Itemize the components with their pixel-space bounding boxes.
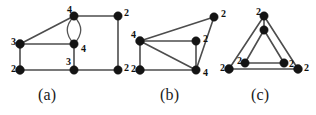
vertex-c-inner-top — [260, 26, 268, 34]
vertex-c-inner-left-label: 2 — [237, 55, 242, 66]
vertex-b-left-label: 4 — [131, 29, 136, 40]
vertex-a-bottommid — [70, 66, 78, 74]
graph-panel-a: 4234232 — [11, 4, 129, 74]
caption-c: (c) — [0, 86, 316, 104]
vertex-c-bottomleft — [225, 65, 234, 74]
vertex-b-top-label: 2 — [221, 8, 226, 19]
vertex-c-apex-label: 2 — [256, 6, 261, 17]
graph-panel-c: 22222 — [220, 6, 309, 73]
vertex-b-bottomright-label: 4 — [203, 67, 208, 78]
edge-b-left-bottomright — [140, 41, 196, 70]
vertex-a-bottomleft — [16, 66, 25, 75]
vertex-a-mid — [70, 40, 78, 48]
edge-c-innertop-innerleft — [245, 30, 264, 63]
vertex-a-left — [16, 40, 25, 49]
vertex-b-bottomleft — [136, 66, 145, 75]
vertex-b-bottomleft-label: 2 — [131, 63, 136, 74]
edge-a-left-top — [20, 16, 74, 44]
vertex-c-inner-left — [241, 59, 249, 67]
vertex-b-bottomright — [192, 66, 200, 74]
vertex-a-left-label: 3 — [11, 36, 16, 47]
vertex-c-bottomright — [294, 65, 303, 74]
vertex-b-right — [192, 37, 200, 45]
graph-panel-b: 24224 — [131, 8, 226, 78]
edge-c-innertop-innerright — [264, 30, 284, 63]
vertex-a-bottomright — [114, 66, 122, 74]
vertex-a-bottomleft-label: 2 — [11, 63, 16, 74]
vertex-a-topright — [114, 12, 122, 20]
graph-figure-container: 42342322422422222 (a) (b) (c) — [0, 0, 316, 115]
vertex-c-apex — [260, 12, 268, 20]
vertex-c-bottomleft-label: 2 — [220, 62, 225, 73]
vertex-b-right-label: 2 — [203, 33, 208, 44]
vertex-c-bottomright-label: 2 — [304, 62, 309, 73]
vertex-a-bottommid-label: 3 — [66, 56, 71, 67]
vertex-a-mid-label: 4 — [81, 43, 86, 54]
vertex-c-inner-right-label: 2 — [289, 58, 294, 69]
vertex-b-top — [210, 13, 218, 21]
vertex-b-left — [136, 37, 145, 46]
vertex-a-bottomright-label: 2 — [124, 62, 129, 73]
vertex-a-topright-label: 2 — [124, 7, 129, 18]
vertex-a-top-label: 4 — [67, 4, 72, 15]
vertex-c-inner-right — [280, 59, 288, 67]
